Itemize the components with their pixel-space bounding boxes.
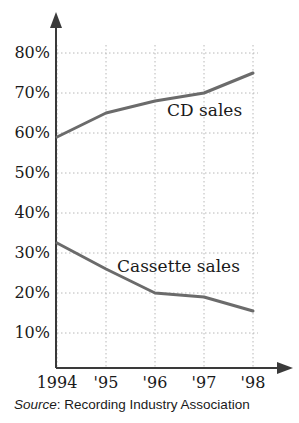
x-tick-label-98: '98	[228, 375, 278, 391]
series-label-cassette-sales: Cassette sales	[117, 258, 240, 275]
source-caption: Source: Recording Industry Association	[14, 398, 250, 412]
x-tick-label-1994: 1994	[27, 375, 87, 391]
y-tick-label-40: 40%	[0, 205, 50, 221]
x-axis-arrowhead	[277, 362, 293, 374]
y-tick-label-10: 10%	[0, 325, 50, 341]
y-tick-label-60: 60%	[0, 125, 50, 141]
y-tick-label-50: 50%	[0, 165, 50, 181]
horizontal-gridlines	[57, 53, 258, 333]
source-text: Recording Industry Association	[64, 397, 249, 412]
y-tick-label-30: 30%	[0, 245, 50, 261]
series-label-cd-sales: CD sales	[167, 102, 242, 119]
x-tick-label-97: '97	[179, 375, 229, 391]
y-axis-arrowhead	[50, 12, 62, 28]
y-tick-label-20: 20%	[0, 285, 50, 301]
y-tick-label-70: 70%	[0, 85, 50, 101]
y-axis	[50, 12, 62, 368]
source-prefix-label: Source	[14, 397, 57, 412]
y-tick-label-80: 80%	[0, 45, 50, 61]
x-tick-label-96: '96	[130, 375, 180, 391]
line-chart-figure: 80% 70% 60% 50% 40% 30% 20% 10% 1994 '95…	[0, 0, 299, 423]
x-tick-label-95: '95	[81, 375, 131, 391]
